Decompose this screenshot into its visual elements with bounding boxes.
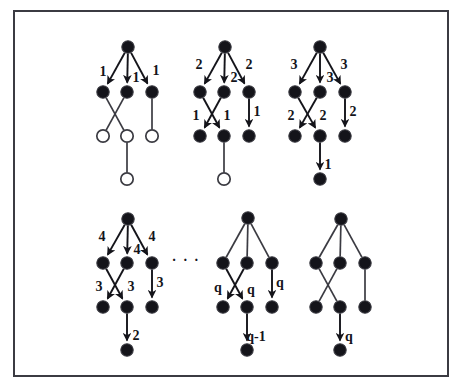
edge-weight-label: 1 — [153, 63, 160, 78]
graph-edge — [251, 224, 269, 257]
edge-weight-label: 2 — [320, 108, 327, 123]
edge-weight-label: 3 — [128, 279, 135, 294]
filled-node — [314, 86, 326, 98]
graph-4: 4443332 — [96, 213, 164, 356]
edge-weight-label: 2 — [350, 104, 357, 119]
open-node — [121, 130, 133, 142]
graph-arrow-edge — [108, 53, 125, 84]
filled-node — [121, 344, 133, 356]
graph-edge — [319, 225, 337, 258]
graph-arrow-edge — [127, 226, 128, 254]
filled-node — [339, 130, 351, 142]
graph-arrow-edge — [228, 269, 244, 299]
edge-weight-label: 4 — [99, 229, 106, 244]
graph-6: q — [310, 213, 371, 356]
edge-weight-label: 2 — [133, 328, 140, 343]
filled-node — [194, 130, 206, 142]
graph-arrow-edge — [203, 98, 219, 128]
edge-weight-label: q — [345, 329, 353, 344]
ellipsis-separator: · · · — [172, 253, 201, 268]
edge-weight-label: 3 — [291, 57, 298, 72]
filled-node — [310, 257, 322, 269]
edge-weight-label: 1 — [254, 104, 261, 119]
edge-weight-label: 3 — [327, 70, 334, 85]
filled-node — [334, 344, 346, 356]
filled-node — [266, 301, 278, 313]
edge-weight-label: 1 — [193, 108, 200, 123]
edge-weight-label: q — [247, 282, 255, 297]
filled-node — [243, 130, 255, 142]
edge-weight-label: q — [214, 280, 222, 295]
edge-weight-label: 2 — [288, 108, 295, 123]
graph-arrow-edge — [226, 269, 242, 299]
filled-node — [121, 301, 133, 313]
filled-node — [289, 130, 301, 142]
edge-weight-label: 1 — [100, 64, 107, 79]
open-node — [121, 173, 133, 185]
filled-node — [218, 130, 230, 142]
graph-edge — [247, 225, 248, 257]
graph-arrow-edge — [127, 54, 128, 83]
graph-arrow-edge — [300, 53, 317, 84]
filled-node — [314, 41, 326, 53]
filled-node — [146, 257, 158, 269]
filled-node — [97, 301, 109, 313]
filled-node — [242, 212, 254, 224]
graph-arrow-edge — [205, 53, 222, 84]
filled-node — [241, 344, 253, 356]
graph-2: 222111 — [193, 41, 261, 185]
filled-node — [241, 257, 253, 269]
filled-node — [218, 86, 230, 98]
graph-1: 111 — [97, 41, 160, 185]
filled-node — [243, 86, 255, 98]
graph-arrow-edge — [106, 269, 122, 299]
filled-node — [146, 301, 158, 313]
edge-weight-label: 3 — [96, 279, 103, 294]
filled-node — [314, 130, 326, 142]
graph-arrow-edge — [298, 98, 315, 128]
edge-weight-label: 1 — [133, 70, 140, 85]
open-node — [97, 130, 109, 142]
filled-node — [121, 86, 133, 98]
filled-node — [217, 301, 229, 313]
graph-edge — [344, 225, 362, 257]
graph-arrow-edge — [205, 98, 221, 128]
graph-5: qqqq-1 — [214, 212, 284, 356]
filled-node — [121, 257, 133, 269]
edge-weight-label: 2 — [196, 57, 203, 72]
graph-edge — [340, 226, 341, 257]
open-node — [218, 173, 230, 185]
edge-weight-label: 3 — [157, 275, 164, 290]
filled-node — [359, 301, 371, 313]
edge-weight-label: 4 — [149, 229, 156, 244]
edge-weight-label: q — [276, 275, 284, 290]
filled-node — [266, 257, 278, 269]
edge-weight-label: 1 — [325, 157, 332, 172]
open-node — [146, 130, 158, 142]
graph-arrow-edge — [224, 54, 225, 83]
filled-node — [334, 301, 346, 313]
filled-node — [241, 301, 253, 313]
filled-node — [217, 257, 229, 269]
graph-arrow-edge — [108, 269, 124, 299]
filled-node — [97, 257, 109, 269]
filled-node — [334, 257, 346, 269]
graph-edge — [226, 224, 245, 257]
edge-weight-label: 1 — [224, 108, 231, 123]
edge-weight-label: 2 — [231, 70, 238, 85]
graph-arrow-edge — [300, 98, 317, 128]
filled-node — [194, 86, 206, 98]
filled-node — [122, 41, 134, 53]
edge-weight-label: q-1 — [246, 329, 265, 344]
filled-node — [339, 86, 351, 98]
filled-node — [97, 86, 109, 98]
graph-3: 3332221 — [288, 41, 357, 185]
edge-weight-label: 3 — [341, 57, 348, 72]
filled-node — [335, 213, 347, 225]
filled-node — [219, 41, 231, 53]
filled-node — [310, 301, 322, 313]
graph-diagram-canvas: 11122211133322214443332qqqq-1q· · · — [0, 0, 463, 389]
filled-node — [359, 257, 371, 269]
edge-weight-label: 4 — [134, 242, 141, 257]
filled-node — [289, 86, 301, 98]
